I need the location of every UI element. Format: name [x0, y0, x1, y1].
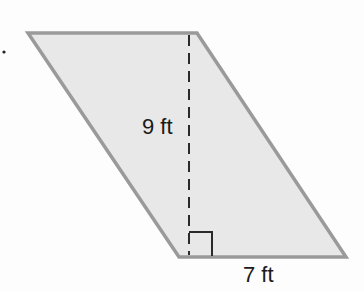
parallelogram-shape [28, 33, 346, 257]
base-label: 7 ft [243, 264, 274, 286]
height-label: 9 ft [142, 116, 173, 138]
parallelogram-diagram: 9 ft 7 ft [0, 0, 364, 292]
bullet-dot [2, 50, 5, 53]
diagram-graphic [0, 0, 364, 292]
